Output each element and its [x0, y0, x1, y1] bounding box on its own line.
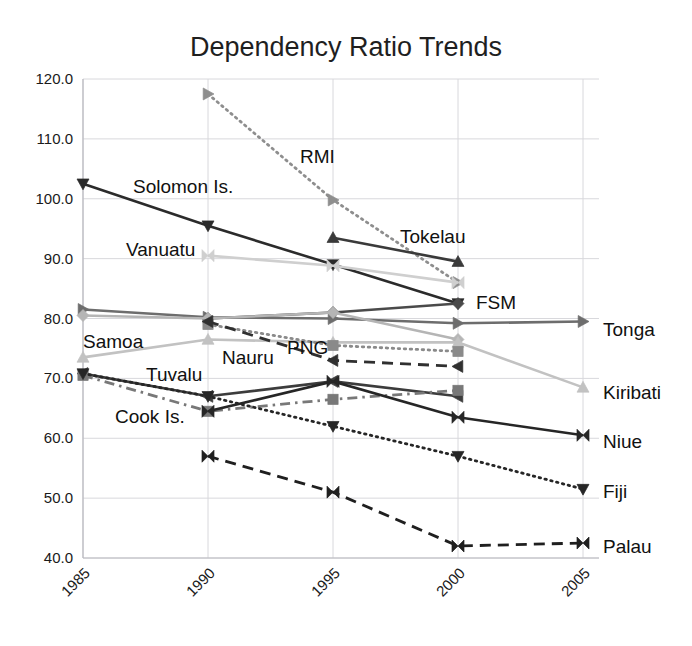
y-tick-label: 90.0 — [44, 250, 73, 267]
series-label-tuvalu: Tuvalu — [146, 364, 202, 385]
data-point-marker — [453, 346, 463, 356]
series-label-fiji: Fiji — [603, 481, 627, 502]
series-label-tonga: Tonga — [603, 319, 655, 340]
series-label-samoa: Samoa — [83, 331, 144, 352]
y-tick-label: 70.0 — [44, 369, 73, 386]
series-label-nauru: Nauru — [222, 347, 274, 368]
data-point-marker — [328, 394, 338, 404]
series-label-fsm: FSM — [476, 292, 516, 313]
series-label-solomon-is: Solomon Is. — [133, 176, 233, 197]
chart-title: Dependency Ratio Trends — [190, 32, 502, 62]
y-tick-label: 40.0 — [44, 549, 73, 566]
y-tick-label: 100.0 — [35, 190, 73, 207]
y-tick-label: 60.0 — [44, 429, 73, 446]
y-tick-label: 110.0 — [37, 130, 73, 147]
dependency-ratio-line-chart: Dependency Ratio Trends 40.050.060.070.0… — [0, 0, 692, 646]
chart-background — [0, 0, 692, 646]
series-label-kiribati: Kiribati — [603, 382, 661, 403]
series-label-rmi: RMI — [300, 146, 335, 167]
series-label-tokelau: Tokelau — [400, 226, 466, 247]
series-label-png: PNG — [287, 337, 328, 358]
series-label-palau: Palau — [603, 536, 652, 557]
chart-container: Dependency Ratio Trends 40.050.060.070.0… — [0, 0, 692, 646]
data-point-marker — [328, 340, 338, 350]
series-label-niue: Niue — [603, 431, 642, 452]
y-tick-label: 50.0 — [44, 489, 73, 506]
series-label-cook-is: Cook Is. — [115, 406, 185, 427]
data-point-marker — [453, 385, 463, 395]
series-label-vanuatu: Vanuatu — [126, 239, 195, 260]
y-tick-label: 120.0 — [35, 70, 73, 87]
y-tick-label: 80.0 — [44, 310, 73, 327]
